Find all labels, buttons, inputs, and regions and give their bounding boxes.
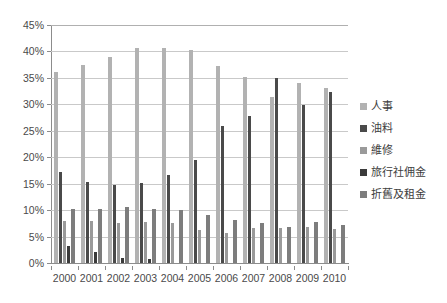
bar xyxy=(117,223,120,263)
bar xyxy=(113,185,116,263)
x-axis-tick-label: 2004 xyxy=(159,272,186,284)
bar-group xyxy=(321,25,348,263)
bar xyxy=(297,83,300,263)
y-axis-tick-label: 10% xyxy=(23,205,44,215)
bar xyxy=(140,183,143,263)
legend-swatch-icon xyxy=(360,147,367,154)
y-axis-tick-label: 15% xyxy=(23,179,44,189)
y-axis-tick-label: 45% xyxy=(23,20,44,30)
bar xyxy=(324,88,327,263)
bar xyxy=(329,92,332,263)
bar xyxy=(198,230,201,263)
x-axis-tick xyxy=(186,266,187,270)
x-axis: 2000200120022003200420052006200720082009… xyxy=(51,266,348,290)
bar-group xyxy=(51,25,78,263)
bar xyxy=(306,227,309,263)
x-axis-tick-label: 2002 xyxy=(105,272,132,284)
y-axis-tick-label: 25% xyxy=(23,126,44,136)
bar xyxy=(59,172,62,263)
x-axis-tick xyxy=(51,266,52,270)
x-axis-tick-label: 2008 xyxy=(267,272,294,284)
x-axis-tick xyxy=(105,266,106,270)
chart-legend: 人事油料維修旅行社佣金折舊及租金 xyxy=(360,96,447,206)
bar-group xyxy=(240,25,267,263)
bar xyxy=(108,57,111,263)
bar xyxy=(189,50,192,263)
legend-item[interactable]: 油料 xyxy=(360,118,447,138)
bar xyxy=(270,97,273,263)
bar xyxy=(90,221,93,263)
bar xyxy=(206,215,209,263)
legend-swatch-icon xyxy=(360,103,367,110)
bar xyxy=(81,65,84,263)
bar xyxy=(63,221,66,263)
bar xyxy=(71,209,74,263)
bar xyxy=(144,222,147,263)
legend-label: 旅行社佣金 xyxy=(371,167,426,178)
x-axis-tick-label: 2009 xyxy=(294,272,321,284)
bar xyxy=(248,116,251,263)
bar xyxy=(67,246,70,263)
x-axis-tick-label: 2007 xyxy=(240,272,267,284)
legend-label: 維修 xyxy=(371,145,393,156)
bar xyxy=(243,77,246,263)
bar xyxy=(233,220,236,263)
y-axis: 0%5%10%15%20%25%30%35%40%45% xyxy=(0,0,51,303)
legend-swatch-icon xyxy=(360,169,367,176)
x-axis-tick xyxy=(294,266,295,270)
bar xyxy=(86,182,89,263)
bar xyxy=(194,160,197,263)
plot-area xyxy=(51,25,348,263)
bar-group xyxy=(159,25,186,263)
legend-label: 油料 xyxy=(371,123,393,134)
bar xyxy=(314,222,317,263)
bar xyxy=(287,227,290,263)
x-axis-tick-label: 2010 xyxy=(321,272,348,284)
x-axis-tick xyxy=(132,266,133,270)
bar xyxy=(221,126,224,264)
legend-item[interactable]: 人事 xyxy=(360,96,447,116)
legend-item[interactable]: 旅行社佣金 xyxy=(360,162,447,182)
legend-item[interactable]: 折舊及租金 xyxy=(360,184,447,204)
bar-group xyxy=(267,25,294,263)
bar xyxy=(152,209,155,263)
bar xyxy=(162,48,165,263)
bar-group xyxy=(213,25,240,263)
y-axis-tick-label: 5% xyxy=(29,232,44,242)
x-axis-tick xyxy=(348,266,349,270)
bar xyxy=(98,209,101,263)
bar xyxy=(225,233,228,263)
y-axis-tick-label: 40% xyxy=(23,46,44,56)
y-axis-tick-label: 35% xyxy=(23,73,44,83)
x-axis-tick xyxy=(267,266,268,270)
legend-label: 折舊及租金 xyxy=(371,189,426,200)
bar xyxy=(171,223,174,263)
bar xyxy=(125,207,128,263)
bar xyxy=(333,229,336,263)
bar-chart: 0%5%10%15%20%25%30%35%40%45% 20002001200… xyxy=(0,0,447,303)
y-axis-tick-label: 20% xyxy=(23,152,44,162)
bar xyxy=(148,259,151,263)
bar xyxy=(252,228,255,263)
bar xyxy=(302,105,305,263)
bar xyxy=(341,225,344,263)
bar xyxy=(167,175,170,263)
bar xyxy=(121,258,124,263)
x-axis-tick xyxy=(240,266,241,270)
x-axis-tick xyxy=(213,266,214,270)
bar xyxy=(54,72,57,263)
x-axis-tick xyxy=(159,266,160,270)
bar xyxy=(216,66,219,263)
legend-item[interactable]: 維修 xyxy=(360,140,447,160)
legend-swatch-icon xyxy=(360,191,367,198)
bar xyxy=(279,228,282,263)
bar xyxy=(94,252,97,263)
bar-group xyxy=(294,25,321,263)
x-axis-tick-label: 2006 xyxy=(213,272,240,284)
bar-group xyxy=(132,25,159,263)
y-axis-tick-label: 0% xyxy=(29,258,44,268)
bar xyxy=(179,210,182,263)
x-axis-tick-label: 2001 xyxy=(78,272,105,284)
y-axis-tick-label: 30% xyxy=(23,99,44,109)
x-axis-tick xyxy=(78,266,79,270)
